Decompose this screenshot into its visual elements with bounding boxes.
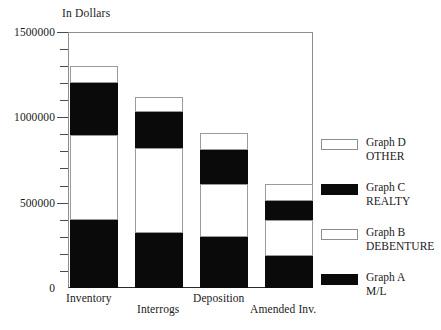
y-tick-minor xyxy=(60,100,68,101)
segment-ml xyxy=(70,220,118,288)
segment-debenture xyxy=(200,184,248,237)
legend-label-line2: M/L xyxy=(366,285,405,299)
y-axis-label-1500000: 1500000 xyxy=(0,26,55,38)
segment-ml xyxy=(200,237,248,288)
segment-realty xyxy=(70,83,118,135)
segment-other xyxy=(200,133,248,150)
legend-label-line1: Graph D xyxy=(366,136,406,148)
stacked-bar-chart: In Dollars 1500000 1000000 500000 0 xyxy=(0,0,441,330)
y-tick-minor xyxy=(60,151,68,152)
x-label-inventory: Inventory xyxy=(66,292,112,304)
legend-item-graph-a: Graph A M/L xyxy=(321,271,405,298)
y-tick-minor xyxy=(60,168,68,169)
legend-swatch-ml-icon xyxy=(321,274,358,285)
segment-debenture xyxy=(265,220,313,256)
x-label-deposition: Deposition xyxy=(193,292,244,304)
y-tick-minor xyxy=(60,134,68,135)
axis-title: In Dollars xyxy=(62,7,110,19)
legend-label-line2: REALTY xyxy=(366,195,410,209)
legend-swatch-debenture-icon xyxy=(321,229,358,240)
x-label-interrogs: Interrogs xyxy=(137,303,179,315)
legend-item-graph-d: Graph D OTHER xyxy=(321,136,406,163)
y-tick-minor xyxy=(60,49,68,50)
legend-label-line2: OTHER xyxy=(366,150,406,164)
legend-item-graph-b: Graph B DEBENTURE xyxy=(321,226,434,253)
legend-label-graph-d: Graph D OTHER xyxy=(366,136,406,163)
segment-other xyxy=(135,97,183,112)
y-axis-label-1000000: 1000000 xyxy=(0,111,55,123)
segment-other xyxy=(70,66,118,83)
segment-ml xyxy=(265,256,313,288)
y-axis-label-0: 0 xyxy=(0,282,55,294)
legend-label-line1: Graph A xyxy=(366,271,405,283)
y-tick-minor xyxy=(60,237,68,238)
y-tick-1000000 xyxy=(57,117,68,118)
segment-realty xyxy=(265,201,313,220)
segment-debenture xyxy=(135,148,183,233)
segment-realty xyxy=(200,150,248,184)
y-axis-label-500000: 500000 xyxy=(0,197,55,209)
legend-label-line2: DEBENTURE xyxy=(366,240,434,254)
y-tick-minor xyxy=(60,271,68,272)
y-tick-minor xyxy=(60,254,68,255)
legend-swatch-realty-icon xyxy=(321,184,358,195)
y-tick-minor xyxy=(60,83,68,84)
y-tick-minor xyxy=(60,220,68,221)
legend-label-graph-c: Graph C REALTY xyxy=(366,181,410,208)
legend-item-graph-c: Graph C REALTY xyxy=(321,181,410,208)
legend-label-graph-b: Graph B DEBENTURE xyxy=(366,226,434,253)
y-tick-minor xyxy=(60,66,68,67)
bars-layer xyxy=(68,32,313,288)
segment-debenture xyxy=(70,135,118,220)
segment-realty xyxy=(135,112,183,148)
x-label-amended-inv: Amended Inv. xyxy=(250,303,316,315)
legend-label-line1: Graph B xyxy=(366,226,405,238)
y-tick-1500000 xyxy=(57,32,68,33)
y-tick-500000 xyxy=(57,203,68,204)
segment-ml xyxy=(135,233,183,288)
segment-other xyxy=(265,184,313,201)
y-tick-minor xyxy=(60,186,68,187)
legend-swatch-other-icon xyxy=(321,139,358,150)
legend-label-graph-a: Graph A M/L xyxy=(366,271,405,298)
legend-label-line1: Graph C xyxy=(366,181,405,193)
